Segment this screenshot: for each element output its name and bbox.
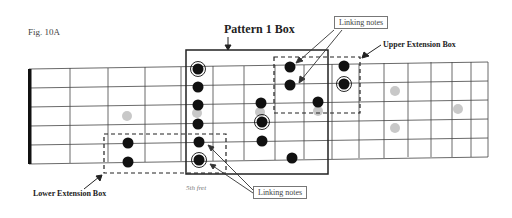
inlay-dot xyxy=(390,86,400,96)
linking-note xyxy=(285,62,296,73)
linking-note xyxy=(285,80,296,91)
lower-extension-box xyxy=(104,134,226,173)
pattern-1-arrow xyxy=(225,37,231,50)
scale-note xyxy=(123,157,134,168)
guitar-scale-diagram: Fig. 10A Pattern 1 Box Upper Extension B… xyxy=(0,0,512,218)
linking-notes-callout-top: Linking notes xyxy=(334,16,388,29)
scale-note xyxy=(194,137,205,148)
scale-note xyxy=(257,136,268,147)
lower-box-arrow xyxy=(84,175,102,189)
root-note xyxy=(194,155,205,166)
upper-box-arrow xyxy=(362,45,381,58)
root-note xyxy=(257,117,268,128)
nut xyxy=(28,69,32,164)
scale-note xyxy=(287,153,298,164)
inlay-dot xyxy=(453,104,463,114)
inlay-dot xyxy=(122,111,132,121)
inlay-dot xyxy=(255,107,265,117)
scale-note xyxy=(193,119,204,130)
pattern-title: Pattern 1 Box xyxy=(224,22,295,37)
scale-note xyxy=(256,98,267,109)
fret-inlays xyxy=(122,86,463,133)
scale-note xyxy=(123,138,134,149)
lower-extension-label: Lower Extension Box xyxy=(33,189,106,198)
bottom-callout-arrows xyxy=(208,145,253,193)
upper-extension-label: Upper Extension Box xyxy=(383,40,456,49)
root-note xyxy=(193,64,204,75)
scale-note xyxy=(313,97,324,108)
linking-notes-callout-bottom: Linking notes xyxy=(253,186,307,199)
frets xyxy=(70,62,488,163)
root-note xyxy=(339,79,350,90)
scale-note xyxy=(339,61,350,72)
inlay-dot xyxy=(390,123,400,133)
fret-marker-label: 5th fret xyxy=(186,184,206,192)
scale-note xyxy=(193,82,204,93)
scale-note xyxy=(193,100,204,111)
figure-label: Fig. 10A xyxy=(28,27,60,37)
